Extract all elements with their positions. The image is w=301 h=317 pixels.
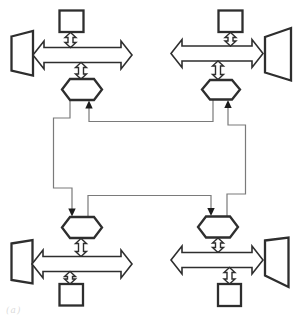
small-double-arrow-upper bbox=[76, 239, 87, 257]
ring-bus bbox=[54, 100, 246, 217]
ring-segment-left bbox=[54, 101, 73, 211]
small-double-arrow-upper bbox=[213, 238, 224, 253]
ring-segment-top bbox=[89, 100, 213, 122]
device-box bbox=[218, 284, 241, 306]
hexagon-interface bbox=[62, 217, 102, 238]
arrowhead-into-bottom-right-hexagon bbox=[207, 208, 214, 216]
trapezoid bbox=[12, 240, 33, 284]
arrowhead-into-top-left-hexagon bbox=[85, 101, 92, 109]
caption-label: (a) bbox=[6, 305, 21, 315]
cluster-bottom-right bbox=[171, 217, 289, 307]
small-double-arrow-upper bbox=[65, 33, 76, 48]
cluster-top-right bbox=[171, 11, 291, 100]
device-box bbox=[60, 284, 84, 306]
hexagon-interface bbox=[62, 79, 102, 100]
ring-segment-right bbox=[227, 107, 246, 217]
small-double-arrow-lower bbox=[224, 268, 235, 285]
architecture-diagram bbox=[0, 0, 301, 317]
trapezoid bbox=[265, 28, 291, 81]
ring-segment-bottom bbox=[88, 196, 211, 217]
trapezoid bbox=[265, 238, 289, 288]
arrowhead-into-top-right-hexagon bbox=[224, 100, 231, 108]
small-double-arrow-lower bbox=[76, 63, 87, 80]
arrowhead-into-bottom-left-hexagon bbox=[68, 209, 75, 217]
cluster-bottom-left bbox=[12, 217, 133, 306]
cluster-top-left bbox=[12, 11, 133, 101]
device-box bbox=[219, 11, 243, 33]
small-double-arrow-lower bbox=[213, 61, 224, 80]
small-double-arrow-upper bbox=[225, 33, 236, 47]
ring-arrowheads bbox=[68, 100, 231, 217]
figure-canvas: (a) bbox=[0, 0, 301, 317]
hexagon-interface bbox=[202, 80, 240, 100]
device-box bbox=[60, 11, 84, 33]
trapezoid bbox=[12, 31, 34, 76]
hexagon-interface bbox=[198, 217, 238, 238]
small-double-arrow-lower bbox=[65, 272, 76, 285]
